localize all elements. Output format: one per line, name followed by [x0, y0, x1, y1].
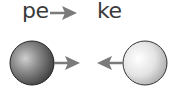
pe-label: pe: [22, 0, 49, 22]
light-sphere: [123, 41, 167, 85]
ke-label: ke: [97, 0, 122, 22]
arrow-right-icon: [54, 56, 80, 70]
arrow-left-icon: [97, 56, 123, 70]
dark-sphere: [10, 41, 54, 85]
arrow-right-icon: [50, 6, 77, 20]
